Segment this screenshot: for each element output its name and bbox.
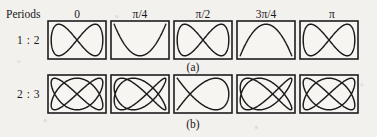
lissajous-panel-12-4 <box>300 21 358 59</box>
panel-frame <box>237 21 295 59</box>
periods-label: Periods <box>6 8 41 20</box>
lissajous-panel-12-0 <box>48 21 106 59</box>
lissajous-panel-12-3 <box>237 21 295 59</box>
lissajous-panel-23-4 <box>300 75 358 113</box>
lissajous-panel-23-0 <box>48 75 106 113</box>
panel-grid <box>48 21 358 113</box>
row-label-1-2: 1 : 2 <box>17 34 40 46</box>
lissajous-panel-23-1 <box>111 75 169 113</box>
phase-header-pi-2: π/2 <box>196 8 211 20</box>
phase-header-0: 0 <box>74 8 80 20</box>
lissajous-panel-12-1 <box>111 21 169 59</box>
lissajous-figure: Periods 0 π/4 π/2 3π/4 π 1 : 2 2 : 3 (a)… <box>0 0 377 137</box>
lissajous-panel-23-2 <box>174 75 232 113</box>
caption-b: (b) <box>186 118 200 131</box>
phase-header-pi-4: π/4 <box>133 8 148 20</box>
row-label-2-3: 2 : 3 <box>17 88 40 100</box>
lissajous-panel-12-2 <box>174 21 232 59</box>
lissajous-panel-23-3 <box>237 75 295 113</box>
phase-header-row: 0 π/4 π/2 3π/4 π <box>74 8 335 20</box>
panel-frame <box>111 21 169 59</box>
phase-header-pi: π <box>329 8 335 20</box>
phase-header-3pi-4: 3π/4 <box>256 8 277 20</box>
caption-a: (a) <box>187 61 200 74</box>
